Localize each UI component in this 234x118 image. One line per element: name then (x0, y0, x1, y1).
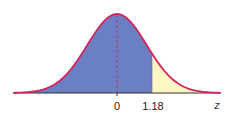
tick-label-zero: 0 (114, 100, 120, 112)
normal-curve-chart: 0 1.18 z (0, 0, 234, 118)
axis-label-z: z (213, 99, 220, 111)
tick-label-z-value: 1.18 (142, 100, 163, 112)
